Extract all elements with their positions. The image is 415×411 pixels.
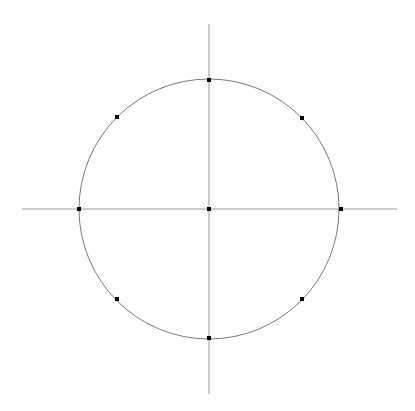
- point-angle-225: [115, 297, 119, 301]
- point-angle-180: [77, 207, 81, 211]
- point-angle-90: [207, 78, 211, 82]
- point-angle-45: [300, 116, 304, 120]
- point-angle-135: [115, 115, 119, 119]
- circle-diagram: [0, 0, 415, 411]
- point-angle-0: [339, 207, 343, 211]
- point-angle-270: [207, 336, 211, 340]
- point-center: [207, 207, 211, 211]
- point-angle-315: [300, 297, 304, 301]
